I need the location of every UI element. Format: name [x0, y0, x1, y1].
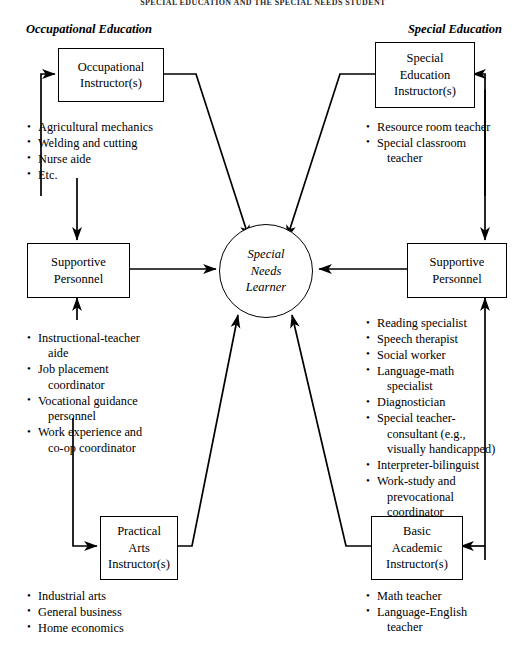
list-item: Nurse aide [27, 152, 212, 167]
box-line: Basic [386, 523, 448, 540]
list-item: Work experience and co-op coordinator [27, 425, 212, 456]
section-label-occupational-education: Occupational Education [26, 22, 152, 37]
box-line: Instructor(s) [108, 556, 170, 573]
list-item: Etc. [27, 168, 212, 183]
list-item: Vocational guidance personnel [27, 394, 212, 425]
box-line: Instructor(s) [394, 83, 456, 100]
list-item: Special classroom teacher [366, 136, 516, 167]
list-item: Industrial arts [27, 589, 212, 604]
box-line: Occupational [78, 59, 145, 76]
box-occupational-instructor[interactable]: Occupational Instructor(s) [58, 48, 164, 102]
list-item: Welding and cutting [27, 136, 212, 151]
box-line: Supportive [430, 254, 485, 271]
list-item: Special teacher- consultant (e.g., visua… [366, 411, 518, 457]
list-item: Speech therapist [366, 332, 518, 347]
box-line: Practical [108, 523, 170, 540]
box-line: Special [394, 50, 456, 67]
list-item: Home economics [27, 621, 212, 636]
box-line: Personnel [51, 271, 106, 288]
center-line: Needs [246, 263, 286, 280]
list-item: Job placement coordinator [27, 362, 212, 393]
list-item: Language-math specialist [366, 364, 518, 395]
box-right-supportive-personnel[interactable]: Supportive Personnel [407, 243, 507, 298]
list-item: Diagnostician [366, 395, 518, 410]
list-item: Social worker [366, 348, 518, 363]
list-item: Math teacher [366, 589, 518, 604]
section-label-special-education: Special Education [408, 22, 502, 37]
list-item: Agricultural mechanics [27, 120, 212, 135]
list-item: Interpreter-bilinguist [366, 458, 518, 473]
running-head: SPECIAL EDUCATION AND THE SPECIAL NEEDS … [0, 0, 526, 7]
list-item: General business [27, 605, 212, 620]
list-basic-academic: Math teacher Language-English teacher [366, 589, 518, 636]
box-line: Instructor(s) [386, 556, 448, 573]
list-item: Instructional-teacher aide [27, 331, 212, 362]
list-item: Resource room teacher [366, 120, 516, 135]
list-special-education-instructor: Resource room teacher Special classroom … [366, 120, 516, 167]
list-right-supportive-personnel: Reading specialist Speech therapist Soci… [366, 316, 518, 521]
box-basic-academic-instructor[interactable]: Basic Academic Instructor(s) [371, 516, 463, 580]
center-line: Learner [246, 279, 286, 296]
box-line: Education [394, 67, 456, 84]
arrow-special-education-to-center [287, 74, 375, 238]
list-left-supportive-personnel: Instructional-teacher aide Job placement… [27, 331, 212, 457]
box-practical-arts-instructor[interactable]: Practical Arts Instructor(s) [100, 516, 178, 580]
box-left-supportive-personnel[interactable]: Supportive Personnel [27, 243, 130, 298]
list-item: Work-study and prevocational coordinator [366, 474, 518, 520]
box-special-education-instructor[interactable]: Special Education Instructor(s) [375, 42, 475, 108]
center-line: Special [246, 246, 286, 263]
list-practical-arts: Industrial arts General business Home ec… [27, 589, 212, 637]
list-item: Language-English teacher [366, 605, 518, 636]
list-occupational-instructor: Agricultural mechanics Welding and cutti… [27, 120, 212, 184]
arrow-basic-academic-to-center [292, 315, 371, 546]
box-line: Instructor(s) [78, 75, 145, 92]
center-node-special-needs-learner[interactable]: Special Needs Learner [219, 224, 313, 318]
diagram-canvas: SPECIAL EDUCATION AND THE SPECIAL NEEDS … [0, 0, 526, 650]
box-line: Personnel [430, 271, 485, 288]
box-line: Arts [108, 540, 170, 557]
box-line: Supportive [51, 254, 106, 271]
list-item: Reading specialist [366, 316, 518, 331]
box-line: Academic [386, 540, 448, 557]
